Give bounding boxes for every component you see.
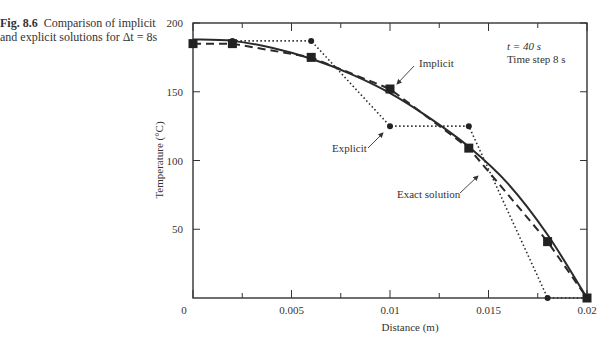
- plot-series: [189, 38, 592, 303]
- step-annotation: Time step 8 s: [507, 53, 566, 65]
- exact-solution-label: Exact solution: [397, 188, 461, 200]
- explicit-arrow-icon: [368, 133, 383, 148]
- implicit-marker: [307, 53, 316, 62]
- series-explicit: [232, 41, 587, 298]
- y-tick-label: 150: [167, 86, 184, 98]
- explicit-marker: [387, 123, 393, 129]
- implicit-marker: [464, 144, 473, 153]
- implicit-marker: [386, 85, 395, 94]
- chart: 00.0050.010.0150.0250100150200Distance (…: [0, 0, 613, 348]
- y-tick-label: 100: [167, 155, 184, 167]
- implicit-marker: [543, 237, 552, 246]
- x-axis-label: Distance (m): [381, 321, 438, 334]
- y-axis-label: Temperature (°C): [153, 121, 166, 199]
- exact-arrow-icon: [460, 176, 478, 193]
- explicit-marker: [229, 38, 235, 44]
- x-tick-label: 0.005: [279, 304, 304, 316]
- explicit-label: Explicit: [332, 142, 367, 154]
- explicit-marker: [308, 38, 314, 44]
- implicit-arrow-icon: [397, 66, 414, 84]
- x-tick-label: 0.02: [577, 304, 596, 316]
- time-annotation: t = 40 s: [507, 40, 541, 52]
- implicit-marker: [583, 294, 592, 303]
- x-tick-label: 0.015: [476, 304, 501, 316]
- x-tick-label: 0: [181, 304, 187, 316]
- y-tick-label: 200: [167, 17, 184, 29]
- implicit-marker: [189, 39, 198, 48]
- explicit-marker: [466, 123, 472, 129]
- plot-annotations: t = 40 sTime step 8 sImplicitExplicitExa…: [332, 40, 566, 200]
- explicit-marker: [545, 295, 551, 301]
- series-implicit: [193, 44, 587, 298]
- series-exact-solution: [193, 40, 587, 299]
- implicit-label: Implicit: [419, 57, 454, 69]
- x-tick-label: 0.01: [380, 304, 399, 316]
- y-tick-label: 50: [172, 223, 184, 235]
